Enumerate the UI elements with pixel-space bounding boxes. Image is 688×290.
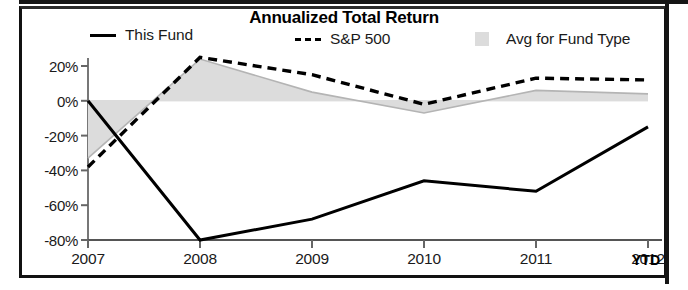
chart-container: Annualized Total Return This Fund S&P 50… — [0, 0, 688, 290]
y-axis-tick-label: 20% — [12, 58, 78, 75]
x-axis-tick-label: 2009 — [295, 250, 329, 268]
series-group — [88, 57, 648, 240]
y-axis-tick-label: -60% — [12, 197, 78, 214]
y-axis-tick-label: -20% — [12, 127, 78, 144]
x-axis-ytd-note: YTD — [632, 252, 660, 268]
series-line-sp500 — [88, 57, 648, 167]
plot-area — [0, 0, 688, 290]
x-axis-tick-label: 2007 — [71, 250, 105, 268]
series-line-avg-for-fund-type — [88, 59, 648, 158]
x-axis-tick-label: 2008 — [183, 250, 217, 268]
plot-svg — [0, 0, 688, 290]
series-area-avg-for-fund-type — [88, 59, 648, 158]
y-axis-tick-labels: 20%0%-20%-40%-60%-80% — [12, 0, 78, 290]
y-axis-tick-label: -40% — [12, 162, 78, 179]
y-axis-tick-label: 0% — [12, 92, 78, 109]
x-axis-tick-label: 2010 — [407, 250, 441, 268]
series-line-this-fund — [88, 101, 648, 240]
y-axis-tick-label: -80% — [12, 232, 78, 249]
x-axis-tick-label: 2011 — [520, 250, 553, 268]
